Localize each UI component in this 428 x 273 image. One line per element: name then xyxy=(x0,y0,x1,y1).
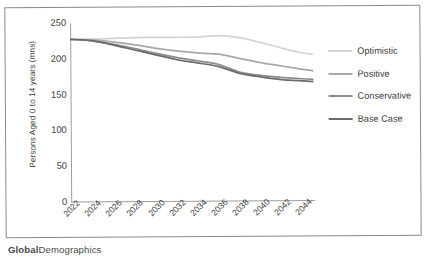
x-axis-tick-2042: 2042 xyxy=(272,197,293,218)
x-axis-tick-2030: 2030 xyxy=(146,197,167,218)
brand-bold-text: Global xyxy=(8,244,38,255)
legend-label: Positive xyxy=(357,68,389,78)
legend-item-conservative[interactable]: Conservative xyxy=(328,84,424,107)
x-axis-tick-2044: 2044 xyxy=(294,197,315,218)
x-axis-tick-2022: 2022 xyxy=(61,198,82,219)
legend-item-base-case[interactable]: Base Case xyxy=(329,107,425,130)
x-axis-tick-2028: 2028 xyxy=(125,198,146,219)
x-axis-tick-2038: 2038 xyxy=(230,197,251,218)
legend-swatch-icon xyxy=(328,72,352,75)
x-axis-tick-2034: 2034 xyxy=(188,197,209,218)
x-axis-tick-2024: 2024 xyxy=(82,198,103,219)
legend-item-optimistic[interactable]: Optimistic xyxy=(328,39,424,62)
x-axis-tick-2032: 2032 xyxy=(167,197,188,218)
legend-item-positive[interactable]: Positive xyxy=(328,62,424,85)
chart-container: Persons Aged 0 to 14 years (mns) 0501001… xyxy=(0,0,428,273)
x-axis-tick-2036: 2036 xyxy=(209,197,230,218)
brand-footer: GlobalDemographics xyxy=(8,244,102,255)
legend-label: Optimistic xyxy=(357,46,397,56)
legend-label: Conservative xyxy=(358,91,412,101)
brand-rest-text: Demographics xyxy=(38,244,101,255)
legend-swatch-icon xyxy=(329,117,353,120)
x-axis-tick-2040: 2040 xyxy=(251,197,272,218)
legend-swatch-icon xyxy=(329,95,353,98)
legend-swatch-icon xyxy=(328,50,352,53)
chart-legend: OptimisticPositiveConservativeBase Case xyxy=(328,39,425,130)
legend-label: Base Case xyxy=(358,113,403,123)
x-axis-tick-2026: 2026 xyxy=(103,198,124,219)
